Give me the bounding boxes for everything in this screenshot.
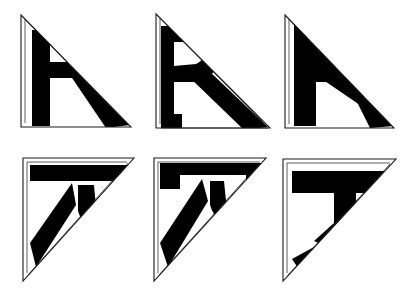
panel-r-rotated-collapsed bbox=[278, 155, 402, 285]
panel-r-upright-collapsed bbox=[280, 10, 400, 134]
panel-r-upright-original bbox=[18, 12, 138, 134]
panel-svg bbox=[150, 155, 272, 285]
panel-svg bbox=[18, 12, 138, 134]
figure-canvas bbox=[0, 0, 410, 291]
panel-r-rotated-original bbox=[20, 155, 140, 285]
panel-r-rotated-compressed bbox=[150, 155, 272, 285]
panel-r-upright-compressed bbox=[152, 10, 278, 134]
panel-svg bbox=[278, 155, 402, 285]
panel-svg bbox=[20, 155, 140, 285]
panel-svg bbox=[280, 10, 400, 134]
panel-svg bbox=[152, 10, 278, 134]
